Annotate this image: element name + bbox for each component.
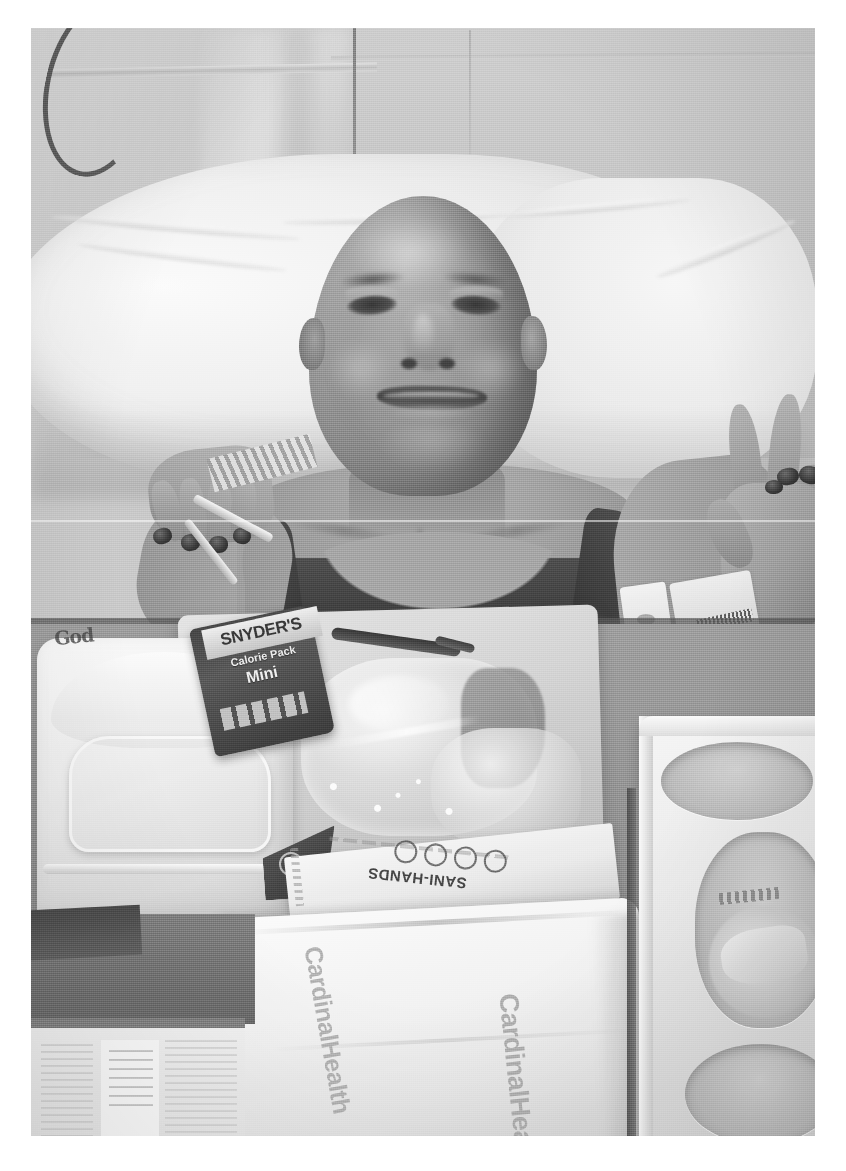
photo-page: God SNYDER'S Calorie Pack Mini SANI-HAND…	[0, 0, 846, 1171]
table-edge-shadow	[31, 905, 142, 962]
nostril-left	[401, 358, 417, 369]
nose-highlight	[413, 314, 433, 354]
food-crumbs	[313, 768, 483, 830]
cup-well	[661, 742, 813, 820]
container-groove	[69, 736, 271, 852]
wipe-step-icon	[453, 846, 478, 871]
wipe-step-icon	[483, 849, 508, 874]
wipe-step-icon	[423, 843, 448, 868]
cup-holder-tray-lip	[639, 716, 815, 736]
container-seam	[43, 864, 283, 874]
paper-text-lines	[41, 1044, 93, 1136]
teeth-highlight	[383, 392, 479, 400]
cup-holder-tray-edge	[639, 716, 653, 1136]
folded-towel	[219, 897, 652, 1136]
tray-side-shadow	[627, 788, 636, 1136]
photograph: God SNYDER'S Calorie Pack Mini SANI-HAND…	[31, 28, 815, 1136]
chin	[377, 424, 487, 470]
wipe-step-icon	[394, 840, 419, 865]
ear-left	[299, 318, 325, 370]
paper-text-lines	[165, 1040, 237, 1136]
lower-lip	[387, 406, 475, 422]
paper-text-lines	[109, 1050, 153, 1106]
nostril-right	[439, 358, 455, 369]
